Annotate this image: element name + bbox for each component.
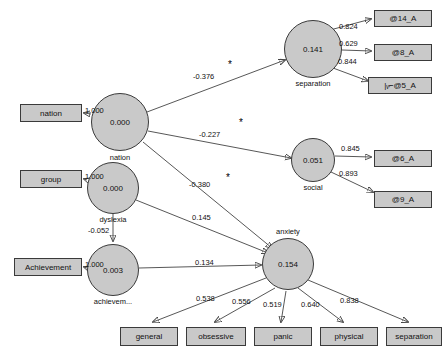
latent-circle-social[interactable]: 0.051 <box>291 138 335 182</box>
significance-star-nation-social: * <box>239 118 243 128</box>
observed-box-a8-label: @8_A <box>392 48 414 57</box>
latent-label-anxiety: anxiety <box>262 227 314 236</box>
observed-box-achievement[interactable]: Achievement <box>14 258 82 276</box>
observed-box-obsessive-label: obsessive <box>198 332 234 341</box>
coef-nation-to-social: -0.227 <box>199 130 220 139</box>
observed-box-nation-label: nation <box>40 109 62 118</box>
observed-box-obsessive[interactable]: obsessive <box>186 327 246 346</box>
latent-label-separation: separation <box>284 79 342 88</box>
coef-nation-to-anxiety-text: -0.380 <box>189 180 210 189</box>
latent-label-nation-text: nation <box>110 153 130 162</box>
coef-anxiety-to-separation-obs: 0.838 <box>340 296 359 305</box>
edge-nation-to-separation <box>147 60 285 112</box>
observed-box-separation[interactable]: separation <box>386 327 442 346</box>
coef-separation-to-a14-text: 0.824 <box>339 22 358 31</box>
latent-circle-dyslexia-value: 0.000 <box>103 184 123 193</box>
coef-separation-to-a8-text: 0.629 <box>339 39 358 48</box>
latent-circle-social-value: 0.051 <box>303 156 323 165</box>
observed-box-a5[interactable]: |ᵥ⌐@5_A <box>368 77 432 94</box>
coef-social-to-a9-text: 0.893 <box>339 169 358 178</box>
coef-dyslexia-to-anxiety-text: 0.145 <box>192 213 211 222</box>
significance-star-nation-anxiety-text: * <box>226 172 230 183</box>
observed-box-a5-label: |ᵥ⌐@5_A <box>384 81 416 90</box>
observed-box-a9-label: @9_A <box>392 195 414 204</box>
coef-separation-to-a8: 0.629 <box>339 39 358 48</box>
latent-label-achievement-text: achievem... <box>94 297 132 306</box>
latent-label-nation: nation <box>91 153 149 162</box>
coef-social-to-a6-text: 0.845 <box>341 144 360 153</box>
latent-label-dyslexia: dyslexia <box>87 215 139 224</box>
significance-star-nation-separation: * <box>228 60 232 70</box>
coef-dyslexia-to-group-text: 1.000 <box>85 172 104 181</box>
observed-box-panic[interactable]: panic <box>254 327 312 346</box>
coef-nation-to-nation-obs-text: 1.000 <box>85 106 104 115</box>
coef-dyslexia-to-anxiety: 0.145 <box>192 213 211 222</box>
coef-anxiety-to-general: 0.538 <box>196 294 215 303</box>
coef-achievement-to-anxiety: 0.134 <box>195 258 214 267</box>
latent-circle-achievement-value: 0.003 <box>103 266 123 275</box>
observed-box-physical[interactable]: physical <box>320 327 378 346</box>
observed-box-a6-label: @6_A <box>392 154 414 163</box>
coef-social-to-a6: 0.845 <box>341 144 360 153</box>
coef-anxiety-to-separation-obs-text: 0.838 <box>340 296 359 305</box>
coef-achievement-to-achievement-obs: 1.000 <box>85 260 104 269</box>
latent-circle-nation[interactable]: 0.000 <box>91 93 149 151</box>
latent-circle-separation[interactable]: 0.141 <box>284 20 342 78</box>
observed-box-a6[interactable]: @6_A <box>374 150 432 167</box>
coef-anxiety-to-physical-text: 0.640 <box>301 300 320 309</box>
coef-nation-to-anxiety: -0.380 <box>189 180 210 189</box>
latent-label-anxiety-text: anxiety <box>276 227 300 236</box>
observed-box-a9[interactable]: @9_A <box>374 191 432 208</box>
observed-box-panic-label: panic <box>273 332 292 341</box>
coef-dyslexia-to-achievement-text: -0.052 <box>88 226 109 235</box>
observed-box-general-label: general <box>136 332 163 341</box>
coef-social-to-a9: 0.893 <box>339 169 358 178</box>
latent-circle-separation-value: 0.141 <box>303 45 323 54</box>
coef-separation-to-a5-text: 0.844 <box>338 57 357 66</box>
observed-box-a8[interactable]: @8_A <box>374 44 432 61</box>
latent-circle-achievement[interactable]: 0.003 <box>87 244 139 296</box>
observed-box-group[interactable]: group <box>20 170 82 188</box>
coef-anxiety-to-physical: 0.640 <box>301 300 320 309</box>
observed-box-separation-label: separation <box>395 332 432 341</box>
coef-nation-to-separation-text: -0.376 <box>193 72 214 81</box>
latent-circle-anxiety[interactable]: 0.154 <box>262 238 314 290</box>
coef-nation-to-nation-obs: 1.000 <box>85 106 104 115</box>
coef-dyslexia-to-achievement: -0.052 <box>88 226 109 235</box>
latent-circle-anxiety-value: 0.154 <box>278 260 298 269</box>
edge-separation-to-a8 <box>342 50 371 51</box>
coef-separation-to-a5: 0.844 <box>338 57 357 66</box>
latent-label-social: social <box>291 183 335 192</box>
coef-anxiety-to-obsessive-text: 0.556 <box>232 297 251 306</box>
observed-box-general[interactable]: general <box>120 327 178 346</box>
latent-label-dyslexia-text: dyslexia <box>99 215 126 224</box>
latent-label-separation-text: separation <box>295 79 330 88</box>
coef-anxiety-to-obsessive: 0.556 <box>232 297 251 306</box>
significance-star-nation-anxiety: * <box>226 173 230 183</box>
coef-nation-to-social-text: -0.227 <box>199 130 220 139</box>
significance-star-nation-social-text: * <box>239 117 243 128</box>
sem-path-diagram: nation group Achievement @14_A @8_A |ᵥ⌐@… <box>0 0 443 362</box>
observed-box-a14-label: @14_A <box>390 14 417 23</box>
observed-box-achievement-label: Achievement <box>25 263 71 272</box>
observed-box-physical-label: physical <box>335 332 364 341</box>
latent-circle-dyslexia[interactable]: 0.000 <box>87 162 139 214</box>
observed-box-nation[interactable]: nation <box>20 104 82 122</box>
coef-dyslexia-to-group: 1.000 <box>85 172 104 181</box>
significance-star-nation-separation-text: * <box>228 59 232 70</box>
latent-label-achievement: achievem... <box>82 297 144 306</box>
coef-nation-to-separation: -0.376 <box>193 72 214 81</box>
latent-label-social-text: social <box>303 183 322 192</box>
coef-separation-to-a14: 0.824 <box>339 22 358 31</box>
observed-box-a14[interactable]: @14_A <box>374 10 432 27</box>
observed-box-group-label: group <box>41 175 61 184</box>
coef-achievement-to-achievement-obs-text: 1.000 <box>85 260 104 269</box>
edge-social-to-a6 <box>335 156 371 157</box>
edge-dyslexia-to-anxiety <box>136 200 268 253</box>
coef-anxiety-to-panic-text: 0.519 <box>263 300 282 309</box>
coef-anxiety-to-panic: 0.519 <box>263 300 282 309</box>
edge-nation-to-anxiety <box>143 142 272 248</box>
coef-achievement-to-anxiety-text: 0.134 <box>195 258 214 267</box>
latent-circle-nation-value: 0.000 <box>110 118 130 127</box>
coef-anxiety-to-general-text: 0.538 <box>196 294 215 303</box>
